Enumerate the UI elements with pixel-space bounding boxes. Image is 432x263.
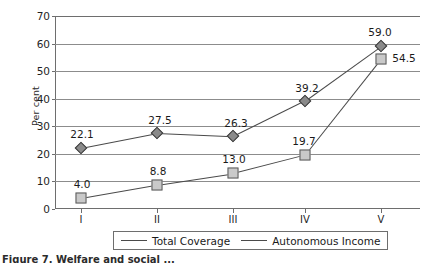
data-point-marker (152, 179, 163, 190)
gridline-70 (55, 16, 420, 17)
x-tickmark-II (157, 209, 158, 213)
y-axis-title: Per cent (30, 66, 41, 146)
legend-label: Total Coverage (152, 235, 230, 247)
y-tick-70: 70 (37, 10, 50, 22)
y-tickmark-10 (52, 181, 55, 182)
x-tick-II: II (154, 214, 160, 225)
y-tickmark-30 (52, 126, 55, 127)
legend-key-square (241, 235, 267, 246)
y-tick-60: 60 (37, 38, 50, 50)
legend-item-autonomous-income[interactable]: Autonomous Income (241, 235, 380, 247)
square-marker-icon (376, 53, 387, 64)
gridline-60 (55, 44, 420, 45)
y-tick-20: 20 (37, 148, 50, 160)
x-tickmark-III (233, 209, 234, 213)
figure-caption: Figure 7. Welfare and social ... (2, 254, 175, 263)
data-point-marker (229, 132, 238, 141)
data-label: 27.5 (148, 114, 171, 126)
square-marker-icon (152, 179, 163, 190)
data-label: 19.7 (292, 135, 315, 147)
data-label: 54.5 (392, 52, 415, 64)
data-point-marker (376, 53, 387, 64)
data-label: 22.1 (70, 128, 93, 140)
line-segment (157, 133, 233, 137)
data-point-marker (77, 144, 86, 153)
y-tick-0: 0 (43, 203, 50, 215)
legend-line (121, 240, 147, 241)
legend-line (241, 240, 267, 241)
data-point-marker (377, 42, 386, 51)
y-tick-30: 30 (37, 120, 50, 132)
y-tickmark-20 (52, 154, 55, 155)
legend-item-total-coverage[interactable]: Total Coverage (121, 235, 230, 247)
data-point-marker (301, 96, 310, 105)
data-point-marker (228, 168, 239, 179)
x-tick-V: V (378, 214, 385, 225)
data-label: 4.0 (74, 178, 91, 190)
diamond-marker-icon (299, 95, 312, 108)
data-label: 8.8 (150, 165, 167, 177)
gridline-50 (55, 71, 420, 72)
y-tickmark-0 (52, 209, 55, 210)
y-tickmark-50 (52, 71, 55, 72)
chart-screenshot: Per cent 010203040506070 IIIIIIIVV 22.12… (0, 0, 432, 263)
legend-label: Autonomous Income (272, 235, 380, 247)
y-tick-40: 40 (37, 93, 50, 105)
data-point-marker (153, 129, 162, 138)
data-label: 26.3 (224, 117, 247, 129)
diamond-marker-icon (75, 142, 88, 155)
x-tick-IV: IV (300, 214, 310, 225)
gridline-10 (55, 181, 420, 182)
plot-area: 010203040506070 IIIIIIIVV 22.127.526.339… (55, 16, 420, 209)
x-axis-line (55, 208, 420, 209)
diamond-marker-icon (375, 40, 388, 53)
y-tickmark-60 (52, 44, 55, 45)
legend-key-diamond (121, 235, 147, 246)
x-tickmark-IV (305, 209, 306, 213)
line-segment (157, 173, 233, 186)
diamond-marker-icon (227, 130, 240, 143)
data-label: 39.2 (295, 82, 318, 94)
chart-legend: Total CoverageAutonomous Income (113, 231, 388, 250)
y-tick-10: 10 (37, 175, 50, 187)
diamond-marker-icon (151, 127, 164, 140)
square-marker-icon (228, 168, 239, 179)
x-tick-III: III (229, 214, 238, 225)
x-tickmark-I (81, 209, 82, 213)
data-label: 13.0 (222, 153, 245, 165)
y-tickmark-70 (52, 16, 55, 17)
data-point-marker (300, 149, 311, 160)
square-marker-icon (76, 192, 87, 203)
data-label: 59.0 (368, 26, 391, 38)
line-segment (81, 185, 157, 199)
gridline-40 (55, 99, 420, 100)
y-tickmark-40 (52, 99, 55, 100)
y-tick-50: 50 (37, 65, 50, 77)
x-tick-I: I (80, 214, 83, 225)
x-tickmark-V (381, 209, 382, 213)
data-point-marker (76, 192, 87, 203)
square-marker-icon (300, 149, 311, 160)
